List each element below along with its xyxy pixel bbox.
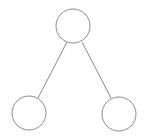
node-root (56, 9, 90, 43)
nodes-group (12, 9, 136, 131)
edges-group (38, 42, 111, 98)
node-right-child (102, 97, 136, 131)
node-left-child (12, 96, 46, 130)
edge-root-to-right-child (82, 42, 111, 98)
tree-diagram (0, 0, 145, 139)
edge-root-to-left-child (38, 42, 67, 98)
